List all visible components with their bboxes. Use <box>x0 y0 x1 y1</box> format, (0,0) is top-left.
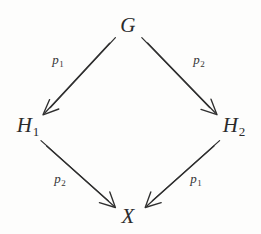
edge-label-g-to-h2-subscript: 2 <box>200 59 205 69</box>
edge-label-g-to-h2-base: p <box>193 52 200 67</box>
edge-label-g-to-h2: p2 <box>193 53 204 69</box>
node-g: G <box>120 15 135 36</box>
edge-label-h2-to-x-base: p <box>190 171 197 186</box>
arrow-h2-to-x <box>145 141 219 208</box>
edge-label-h1-to-x-base: p <box>54 171 61 186</box>
node-x-base: X <box>121 204 134 228</box>
arrow-g-to-h1 <box>43 38 115 115</box>
node-h1-base: H <box>17 113 32 137</box>
node-h1-subscript: 1 <box>33 123 40 138</box>
edge-label-h2-to-x-subscript: 1 <box>197 178 202 188</box>
arrow-h1-to-x <box>41 141 115 208</box>
node-h1: H1 <box>17 115 39 138</box>
edge-label-g-to-h1-subscript: 1 <box>59 59 64 69</box>
edge-label-h2-to-x: p1 <box>190 172 201 188</box>
arrow-g-to-h2 <box>142 38 217 115</box>
node-h2-subscript: 2 <box>239 123 246 138</box>
node-h2-base: H <box>223 113 238 137</box>
arrow-shaft-line-inner <box>148 43 216 113</box>
commutative-diagram: G H1 H2 X p1 p2 p2 p1 <box>0 0 261 234</box>
edge-label-h1-to-x: p2 <box>54 172 65 188</box>
node-x: X <box>121 206 134 227</box>
arrow-shaft-line-inner <box>147 146 214 206</box>
node-g-base: G <box>120 13 135 37</box>
edge-label-h1-to-x-subscript: 2 <box>61 178 66 188</box>
edge-label-g-to-h1: p1 <box>52 53 63 69</box>
edge-label-g-to-h1-base: p <box>52 52 59 67</box>
node-h2: H2 <box>223 115 245 138</box>
